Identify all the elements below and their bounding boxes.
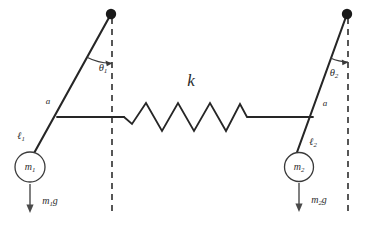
- right-weight-arrowhead: [295, 204, 302, 213]
- coupling-spring: [124, 103, 253, 131]
- left-length-label: ℓ1: [17, 130, 25, 141]
- m2-subscript: 2: [301, 166, 305, 173]
- right-weight-label: m2g: [311, 194, 327, 205]
- m1-symbol: m: [25, 161, 32, 172]
- m2-symbol: m: [294, 161, 301, 172]
- ell1-subscript: 1: [21, 135, 24, 142]
- left-pivot-point: [106, 9, 116, 19]
- m1-subscript: 1: [32, 166, 35, 173]
- left-pendulum-rod: [33, 14, 111, 155]
- right-length-label: ℓ2: [309, 136, 317, 147]
- left-weight-label: m1g: [42, 195, 58, 206]
- right-attachment-distance-label: a: [323, 98, 328, 108]
- theta2-subscript: 2: [335, 72, 339, 80]
- m1g-mass-symbol: m: [42, 195, 49, 206]
- coupled-pendulum-figure: k θ1 θ2 a a ℓ1 ℓ2 m1 m2 m1g: [0, 0, 369, 225]
- right-pivot-point: [342, 9, 352, 19]
- diagram-canvas: k θ1 θ2 a a ℓ1 ℓ2 m1 m2 m1g: [0, 0, 369, 225]
- theta2-arc-arrowhead: [342, 59, 348, 65]
- m2g-gravity-symbol: g: [322, 194, 327, 205]
- theta1-subscript: 1: [104, 67, 108, 75]
- m1g-gravity-symbol: g: [53, 195, 58, 206]
- left-weight-arrowhead: [26, 205, 33, 214]
- theta2-label: θ2: [330, 67, 339, 79]
- theta1-arc-arrowhead: [106, 61, 113, 67]
- left-attachment-distance-label: a: [46, 96, 51, 106]
- m2g-mass-symbol: m: [311, 194, 318, 205]
- theta1-label: θ1: [99, 62, 108, 74]
- right-pendulum-rod: [296, 14, 347, 155]
- ell2-subscript: 2: [313, 141, 317, 148]
- spring-constant-label: k: [187, 71, 195, 90]
